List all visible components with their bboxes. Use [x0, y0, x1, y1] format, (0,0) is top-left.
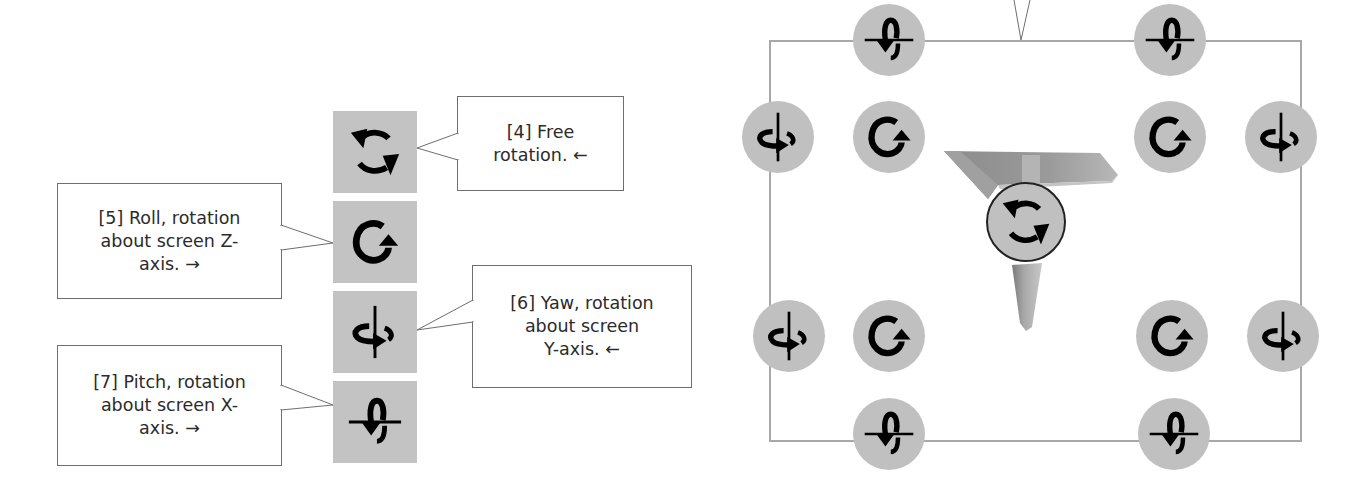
yaw-handle-lower-right[interactable] — [1247, 300, 1319, 372]
pitch-icon — [346, 393, 404, 451]
pitch-icon — [862, 13, 916, 67]
pitch-handle-top-right[interactable] — [1134, 4, 1206, 76]
yaw-button[interactable] — [333, 291, 417, 373]
yaw-icon — [346, 303, 404, 361]
callout-line: rotation. ← — [493, 144, 587, 167]
pitch-icon — [862, 407, 916, 461]
roll-button[interactable] — [333, 201, 417, 283]
free-rotation-icon — [998, 194, 1054, 250]
yaw-handle-upper-left[interactable] — [742, 101, 814, 173]
yaw-icon — [1254, 110, 1308, 164]
callout-line: about screen — [510, 315, 653, 338]
center-free-rotation-handle[interactable] — [986, 182, 1066, 262]
roll-handle-upper-right[interactable] — [1134, 101, 1206, 173]
callout-line: [5] Roll, rotation — [99, 207, 241, 230]
roll-icon — [346, 213, 404, 271]
roll-icon — [1145, 309, 1199, 363]
pitch-handle-bottom-left[interactable] — [853, 398, 925, 470]
callout-line: axis. → — [99, 253, 241, 276]
free-rotation-icon — [346, 123, 404, 181]
callout-line: about screen Z- — [99, 230, 241, 253]
roll-handle-upper-left[interactable] — [853, 101, 925, 173]
callout-line: [4] Free — [493, 121, 587, 144]
pitch-button[interactable] — [333, 381, 417, 463]
callout-pitch: [7] Pitch, rotation about screen X- axis… — [57, 345, 282, 466]
roll-icon — [1143, 110, 1197, 164]
yaw-handle-upper-right[interactable] — [1245, 101, 1317, 173]
yaw-icon — [751, 110, 805, 164]
callout-roll: [5] Roll, rotation about screen Z- axis.… — [57, 183, 282, 299]
roll-icon — [862, 309, 916, 363]
callout-free-rotation: [4] Free rotation. ← — [457, 96, 624, 191]
callout-line: axis. → — [93, 417, 246, 440]
callout-line: about screen X- — [93, 394, 246, 417]
roll-handle-lower-right[interactable] — [1136, 300, 1208, 372]
free-rotation-button[interactable] — [333, 111, 417, 193]
yaw-handle-lower-left[interactable] — [753, 300, 825, 372]
roll-icon — [862, 110, 916, 164]
callout-yaw: [6] Yaw, rotation about screen Y-axis. ← — [472, 265, 692, 388]
pitch-handle-bottom-right[interactable] — [1138, 398, 1210, 470]
callout-line: [7] Pitch, rotation — [93, 371, 246, 394]
yaw-icon — [762, 309, 816, 363]
callout-line: Y-axis. ← — [510, 338, 653, 361]
pitch-icon — [1143, 13, 1197, 67]
pitch-handle-top-left[interactable] — [853, 4, 925, 76]
pitch-icon — [1147, 407, 1201, 461]
yaw-icon — [1256, 309, 1310, 363]
callout-line: [6] Yaw, rotation — [510, 292, 653, 315]
roll-handle-lower-left[interactable] — [853, 300, 925, 372]
